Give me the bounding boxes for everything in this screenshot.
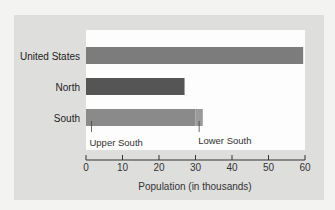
category-label: South xyxy=(54,113,80,124)
x-tick-label: 0 xyxy=(83,162,89,173)
bar-segment-upper-south xyxy=(86,109,196,126)
x-tick-label: 50 xyxy=(263,162,275,173)
x-axis-label: Population (in thousands) xyxy=(138,181,251,192)
bar-chart: United StatesNorthSouth 0102030405060 Up… xyxy=(0,0,335,210)
x-tick-label: 60 xyxy=(299,162,311,173)
x-tick-label: 20 xyxy=(153,162,165,173)
x-tick-label: 40 xyxy=(226,162,238,173)
annotation-lower-south: Lower South xyxy=(198,135,251,146)
bar-north xyxy=(86,78,185,95)
category-label: United States xyxy=(20,51,80,62)
bar-united-states xyxy=(86,47,303,64)
x-tick-label: 30 xyxy=(190,162,202,173)
x-tick-label: 10 xyxy=(117,162,129,173)
category-label: North xyxy=(56,82,80,93)
annotation-upper-south: Upper South xyxy=(89,137,142,148)
